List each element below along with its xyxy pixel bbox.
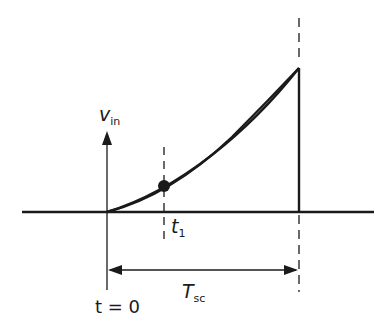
- t1-point: [158, 180, 170, 192]
- duration-label: Tsc: [182, 280, 205, 302]
- duration-arrow-right-icon: [284, 265, 298, 275]
- waveform-diagram: vin t1 Tsc t = 0: [0, 0, 388, 328]
- origin-label: t = 0: [95, 296, 140, 317]
- t1-label-sub: 1: [178, 227, 185, 240]
- duration-arrow-left-icon: [108, 265, 122, 275]
- diagram-graphics: [0, 0, 388, 328]
- ramp-curve-main: [107, 68, 299, 212]
- ramp-curve: [107, 68, 299, 212]
- y-axis-label: vin: [99, 103, 120, 125]
- duration-label-main: T: [182, 280, 194, 302]
- y-axis-label-main: v: [99, 103, 110, 125]
- duration-label-sub: sc: [194, 292, 206, 305]
- t1-label: t1: [171, 215, 185, 237]
- y-axis-arrow-icon: [102, 131, 112, 145]
- y-axis-label-sub: in: [110, 115, 120, 128]
